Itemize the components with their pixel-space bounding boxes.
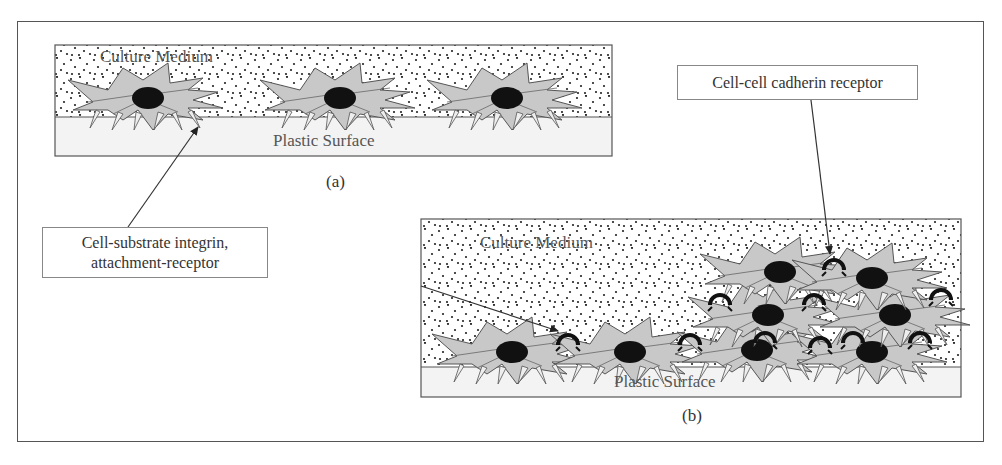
culture-medium-label-b: Culture Medium bbox=[480, 233, 593, 253]
culture-medium-label-a: Culture Medium bbox=[100, 47, 213, 67]
integrin-callout: Cell-substrate integrin, attachment-rece… bbox=[42, 227, 268, 278]
integrin-callout-line1: Cell-substrate integrin, bbox=[43, 233, 267, 253]
panel-caption-b: (b) bbox=[682, 406, 702, 426]
cadherin-callout-text: Cell-cell cadherin receptor bbox=[678, 73, 917, 93]
cadherin-callout: Cell-cell cadherin receptor bbox=[677, 65, 918, 100]
integrin-callout-line2: attachment-receptor bbox=[43, 253, 267, 273]
plastic-surface-label-b: Plastic Surface bbox=[614, 372, 716, 392]
plastic-surface-label-a: Plastic Surface bbox=[273, 131, 375, 151]
panel-caption-a: (a) bbox=[326, 172, 345, 192]
